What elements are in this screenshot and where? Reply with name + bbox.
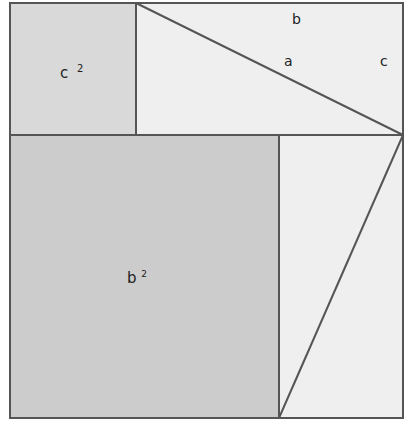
- label-side-b: b: [292, 11, 301, 27]
- pythagoras-diagram: c 2 b 2 b a c: [0, 0, 412, 425]
- label-side-c: c: [380, 53, 388, 69]
- label-side-a: a: [284, 53, 293, 69]
